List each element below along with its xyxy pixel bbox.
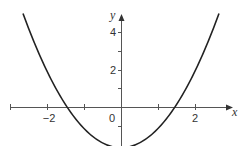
x-axis: −2 2 x: [10, 104, 238, 124]
y-tick-label-2: 2: [110, 64, 116, 76]
x-tick-label-2: 2: [192, 112, 198, 124]
y-tick-label-4: 4: [110, 26, 116, 38]
y-axis-arrow-icon: [119, 14, 125, 21]
y-axis: 4 2 y: [109, 8, 125, 146]
origin-label: 0: [109, 112, 115, 124]
y-axis-label: y: [109, 8, 116, 22]
x-axis-label: x: [231, 105, 238, 119]
x-tick-label-neg2: −2: [43, 112, 56, 124]
parabola-chart: −2 2 x 4 2 y 0: [0, 0, 238, 146]
